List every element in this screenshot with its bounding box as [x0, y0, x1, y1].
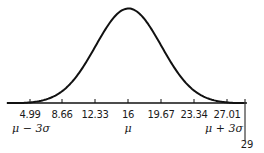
- tick-label-19.67: 19.67: [147, 109, 174, 120]
- tick-label-16: 16: [122, 109, 134, 120]
- tick-label-8.66: 8.66: [51, 109, 72, 120]
- label-mu: μ: [124, 122, 131, 135]
- tick-label-27.01: 27.01: [213, 109, 240, 120]
- marker-label-29: 29: [241, 139, 254, 150]
- tick-label-12.33: 12.33: [81, 109, 108, 120]
- tick-label-4.99: 4.99: [19, 109, 40, 120]
- tick-label-23.34: 23.34: [180, 109, 207, 120]
- label-mu-minus-3sigma: μ − 3σ: [12, 122, 50, 135]
- label-mu-plus-3sigma: μ + 3σ: [205, 122, 243, 135]
- bell-curve: [7, 9, 244, 103]
